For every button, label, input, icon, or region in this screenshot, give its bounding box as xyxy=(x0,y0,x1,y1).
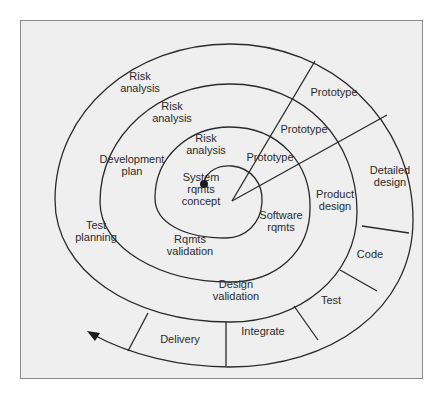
label-software-rqmts: Softwarerqmts xyxy=(259,209,302,233)
label-line: analysis xyxy=(152,112,192,124)
label-design-validation: Designvalidation xyxy=(213,278,259,302)
label-line: validation xyxy=(213,290,259,302)
label-detailed-design: Detaileddesign xyxy=(370,164,410,188)
label-test-planning: Testplanning xyxy=(75,219,117,243)
label-line: Risk xyxy=(120,70,160,82)
label-risk-analysis-middle: Riskanalysis xyxy=(152,100,192,124)
label-line: System xyxy=(182,171,221,183)
spiral-path xyxy=(55,44,413,367)
label-line: concept xyxy=(182,195,221,207)
label-line: design xyxy=(316,200,354,212)
label-line: Rqmts xyxy=(167,233,213,245)
label-line: Test xyxy=(75,219,117,231)
label-rqmts-validation: Rqmtsvalidation xyxy=(167,233,213,257)
label-line: Prototype xyxy=(280,123,327,135)
divider-test-integrate xyxy=(294,306,318,340)
label-line: Test xyxy=(321,294,341,306)
label-line: Prototype xyxy=(310,86,357,98)
divider-detailed-code xyxy=(362,226,409,233)
label-risk-analysis-outer: Riskanalysis xyxy=(120,70,160,94)
label-line: plan xyxy=(100,165,165,177)
label-test: Test xyxy=(321,294,341,306)
label-development-plan: Developmentplan xyxy=(100,153,165,177)
label-line: Development xyxy=(100,153,165,165)
label-line: Product xyxy=(316,188,354,200)
label-prototype-outer: Prototype xyxy=(310,86,357,98)
label-line: rqmts xyxy=(182,183,221,195)
label-line: Delivery xyxy=(160,333,200,345)
spiral-diagram xyxy=(0,0,446,403)
label-risk-analysis-inner: Riskanalysis xyxy=(186,132,226,156)
label-line: planning xyxy=(75,231,117,243)
label-prototype-middle: Prototype xyxy=(280,123,327,135)
label-line: Detailed xyxy=(370,164,410,176)
label-prototype-inner: Prototype xyxy=(246,151,293,163)
label-line: design xyxy=(370,176,410,188)
label-line: Risk xyxy=(186,132,226,144)
label-line: Design xyxy=(213,278,259,290)
label-line: analysis xyxy=(186,144,226,156)
label-product-design: Productdesign xyxy=(316,188,354,212)
label-system-rqmts-concept: Systemrqmtsconcept xyxy=(182,171,221,207)
arrowhead-icon xyxy=(87,331,100,341)
label-integrate: Integrate xyxy=(241,325,284,337)
label-line: analysis xyxy=(120,82,160,94)
label-line: Risk xyxy=(152,100,192,112)
label-line: Prototype xyxy=(246,151,293,163)
label-line: rqmts xyxy=(259,221,302,233)
divider-delivery-end xyxy=(128,313,148,351)
label-line: validation xyxy=(167,245,213,257)
label-code: Code xyxy=(357,248,383,260)
divider-code-test xyxy=(340,270,377,291)
label-line: Software xyxy=(259,209,302,221)
label-line: Integrate xyxy=(241,325,284,337)
label-delivery: Delivery xyxy=(160,333,200,345)
label-line: Code xyxy=(357,248,383,260)
